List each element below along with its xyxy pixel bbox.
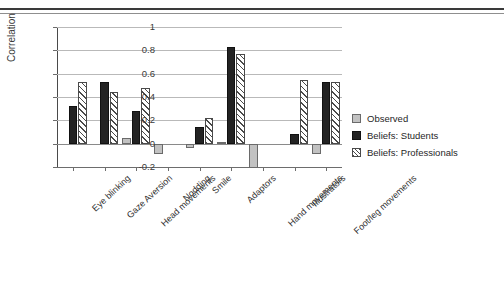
bar-group xyxy=(215,27,247,167)
y-tick-label: 0 xyxy=(150,139,155,149)
y-tick-label: 0.8 xyxy=(142,45,155,55)
x-tick-mark xyxy=(136,167,137,171)
bar-professionals xyxy=(331,82,340,144)
legend-swatch-professionals xyxy=(352,148,361,157)
x-tick-mark xyxy=(200,167,201,171)
bar-students xyxy=(322,82,331,144)
bar-chart-figure: Correlation ObservedBeliefs: StudentsBel… xyxy=(0,0,504,287)
legend-swatch-students xyxy=(352,131,361,140)
y-tick-label: 1 xyxy=(150,22,155,32)
legend-label: Observed xyxy=(367,113,408,124)
bar-students xyxy=(227,47,236,144)
bar-observed xyxy=(217,142,226,144)
bar-observed xyxy=(122,138,131,144)
legend-label: Beliefs: Students xyxy=(367,130,438,141)
y-tick-label: 0.4 xyxy=(142,92,155,102)
x-tick-mark xyxy=(168,167,169,171)
bar-observed xyxy=(186,144,195,149)
legend-label: Beliefs: Professionals xyxy=(367,147,458,158)
bar-students xyxy=(69,106,78,143)
legend-item: Beliefs: Professionals xyxy=(352,144,458,161)
bar-students xyxy=(290,134,299,143)
y-tick-label: 0.2 xyxy=(142,115,155,125)
plot-area xyxy=(57,27,342,167)
x-tick-mark xyxy=(263,167,264,171)
x-tick-mark xyxy=(73,167,74,171)
bar-group xyxy=(279,27,311,167)
bar-students xyxy=(195,127,204,143)
x-axis-category-label: Illustrators xyxy=(310,173,347,209)
bar-group xyxy=(57,27,89,167)
x-axis-category-label: Eye blinking xyxy=(90,173,132,213)
y-tick-mark xyxy=(53,167,57,168)
bar-observed xyxy=(312,144,321,155)
chart-legend: ObservedBeliefs: StudentsBeliefs: Profes… xyxy=(352,110,458,161)
bar-group xyxy=(310,27,342,167)
page-rule-top xyxy=(0,8,504,10)
y-tick-label: 0.6 xyxy=(142,69,155,79)
bar-professionals xyxy=(236,54,245,144)
x-axis-category-label: Adaptors xyxy=(245,173,278,205)
bar-group xyxy=(152,27,184,167)
bar-professionals xyxy=(300,80,309,144)
bar-observed xyxy=(154,144,163,155)
bar-group xyxy=(184,27,216,167)
bar-professionals xyxy=(205,118,214,144)
legend-item: Beliefs: Students xyxy=(352,127,458,144)
page-rule-secondary xyxy=(0,13,504,14)
bar-observed xyxy=(249,144,258,169)
bar-professionals xyxy=(78,82,87,144)
legend-swatch-observed xyxy=(352,114,361,123)
bar-students xyxy=(100,82,109,144)
bar-professionals xyxy=(110,92,119,143)
bar-group xyxy=(89,27,121,167)
x-tick-mark xyxy=(231,167,232,171)
x-axis-category-label: Foot/leg movements xyxy=(352,173,418,236)
x-tick-mark xyxy=(295,167,296,171)
x-tick-mark xyxy=(105,167,106,171)
legend-item: Observed xyxy=(352,110,458,127)
y-axis-title: Correlation xyxy=(6,13,17,62)
x-tick-mark xyxy=(326,167,327,171)
y-tick-label: -0.2 xyxy=(139,162,155,172)
bar-group xyxy=(247,27,279,167)
bar-students xyxy=(132,111,141,144)
